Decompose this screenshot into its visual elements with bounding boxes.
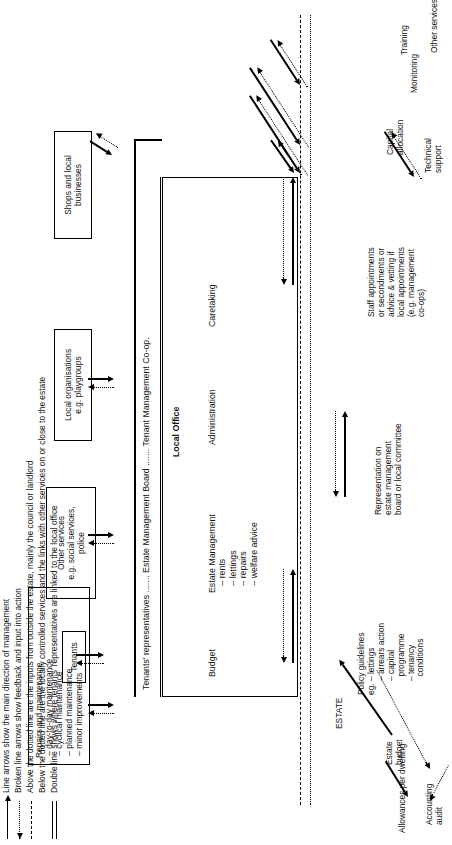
board-strip-right-edge <box>134 139 162 141</box>
legend-symbol-solid-arrow <box>7 801 8 839</box>
board-strip-top-rule <box>134 139 136 697</box>
legend-text-1: Broken line arrows show feedback and inp… <box>14 588 24 793</box>
input-label-representation: Representation on estate management boar… <box>374 423 404 515</box>
legend-text-2: Above the dotted line are the inputs fro… <box>26 461 36 793</box>
arrow-other-services-out <box>278 40 308 87</box>
legend-symbol-double-line <box>52 801 57 839</box>
input-label-monitoring: Monitoring <box>410 54 420 93</box>
legend-text-4: Double line shows where tenants' represe… <box>50 505 60 793</box>
board-strip-label: Tenants' representatives ....... Estate … <box>141 337 151 690</box>
input-label-training: Training <box>400 25 410 55</box>
dotted-separator-line <box>310 15 311 805</box>
side-box-local-organisations: Local organisations e.g. playgroups <box>54 329 92 441</box>
side-box-shops-and-local-businesses: Shops and local businesses <box>54 131 92 239</box>
office-column-estate-management: Estate Management – rents – lettings – r… <box>207 514 259 593</box>
arrow-technical-support <box>392 132 422 179</box>
input-label-other-services: Other services <box>430 0 440 53</box>
local-office-box <box>162 177 298 697</box>
input-label-technical-support: Technical support <box>424 138 444 173</box>
input-label-policy-guidelines: Policy guidelines eg. – lettings – arrea… <box>357 623 426 695</box>
legend-symbol-broken-arrow <box>19 801 20 839</box>
arrow-shops-in <box>90 141 112 155</box>
office-column-budget: Budget <box>207 649 217 677</box>
legend-text-0: Line arrows show the main direction of m… <box>2 599 12 793</box>
legend-symbol-dotted-line <box>31 801 32 839</box>
legend-text-3: Below the dotted line are the locally co… <box>38 377 48 793</box>
office-column-caretaking: Caretaking <box>207 284 217 327</box>
office-column-administration: Administration <box>207 389 217 445</box>
input-label-staff-appointments: Staff appointments or secondments or adv… <box>367 247 426 317</box>
diagram-canvas: Local Office Budget Estate Management – … <box>0 0 452 845</box>
arrow-other-services-in <box>271 40 300 85</box>
local-office-title: Local Office <box>171 407 181 457</box>
estate-label: ESTATE <box>335 698 345 729</box>
board-strip-bottom-rule <box>160 177 161 697</box>
input-label-estate-budget: Estate budget <box>385 739 405 765</box>
arrow-shops-out <box>96 133 118 147</box>
